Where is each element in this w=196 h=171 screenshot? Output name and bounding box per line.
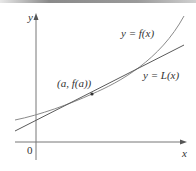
y-axis-label: y: [28, 12, 33, 23]
tangent-line-L: [15, 45, 184, 131]
x-axis-label: x: [182, 148, 187, 159]
y-axis-arrow-icon: [34, 13, 39, 20]
origin-label: 0: [27, 145, 33, 156]
x-axis-arrow-icon: [180, 140, 187, 145]
curve-L-label: y = L(x): [143, 70, 179, 81]
point-label: (a, f(a)): [57, 78, 91, 89]
tangent-point: [90, 92, 93, 95]
curve-f: [15, 16, 184, 120]
curve-f-label: y = f(x): [121, 28, 154, 39]
